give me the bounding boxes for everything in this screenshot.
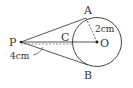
- point-o: [96, 41, 99, 44]
- label-b: B: [84, 69, 92, 82]
- geometry-diagram: A B C O P 2cm 4cm: [0, 0, 133, 88]
- tangent-pb: [21, 42, 88, 65]
- label-o: O: [100, 37, 109, 50]
- point-p: [20, 41, 23, 44]
- tangent-pa: [21, 18, 86, 42]
- label-c: C: [61, 31, 69, 44]
- label-pc: 4cm: [10, 51, 30, 61]
- label-a: A: [83, 4, 93, 17]
- label-radius: 2cm: [95, 24, 115, 34]
- label-p: P: [9, 36, 17, 49]
